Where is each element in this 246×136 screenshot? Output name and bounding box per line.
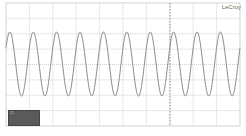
info-channel-label: C1 <box>9 111 39 115</box>
brand-logo: LeCroy <box>222 4 241 10</box>
channel-info-box[interactable]: C1 <box>8 110 40 126</box>
graticule-grid <box>6 3 240 126</box>
